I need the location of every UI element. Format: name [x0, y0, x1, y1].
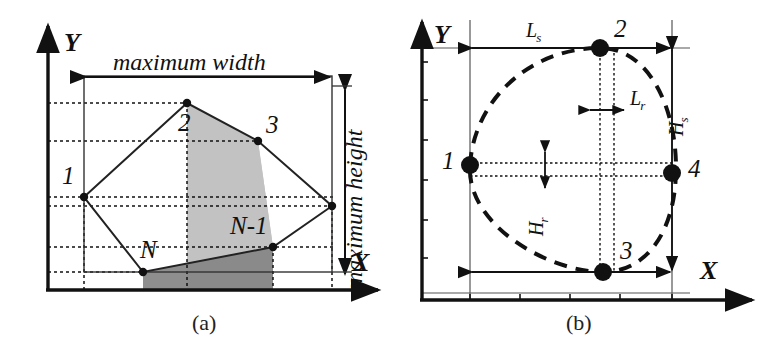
point-label-1: 1	[442, 148, 455, 173]
panel-b: Y X 1 2 3 4 Ls Lr Hs Hr (b)	[400, 0, 778, 356]
vertex-label-1: 1	[62, 163, 75, 188]
panel-b-graphic	[400, 0, 778, 356]
vertex-label-n-minus-1: N-1	[230, 213, 268, 238]
point-dot-4	[663, 164, 681, 182]
vertex-dot-n	[139, 268, 147, 276]
length-r-label: Lr	[630, 88, 645, 112]
figure-container: Y X maximum width maximum height 1 2 3 N…	[0, 0, 778, 356]
length-s-label: Ls	[526, 20, 541, 44]
vertex-dot-2	[183, 99, 191, 107]
vertex-label-2: 2	[178, 110, 191, 135]
vertex-label-3: 3	[266, 112, 279, 137]
panel-b-x-axis-label: X	[700, 258, 717, 284]
point-dot-1	[461, 156, 479, 174]
point-dot-2	[591, 39, 609, 57]
reference-frame-lines	[422, 20, 690, 300]
vertex-dot-1	[80, 193, 88, 201]
dashed-contour-curve	[470, 48, 676, 272]
panel-b-caption: (b)	[566, 312, 592, 334]
maximum-height-label: maximum height	[342, 130, 366, 289]
vertex-dot-right	[328, 202, 336, 210]
panel-a-caption: (a)	[192, 312, 216, 334]
height-s-label: Hs	[666, 117, 690, 136]
maximum-width-label: maximum width	[113, 50, 266, 74]
panel-a-y-axis-label: Y	[64, 30, 80, 56]
vertex-label-n: N	[140, 237, 157, 262]
point-label-4: 4	[688, 156, 701, 181]
point-label-3: 3	[620, 238, 633, 263]
vertex-dot-n-minus-1	[269, 243, 277, 251]
panel-a: Y X maximum width maximum height 1 2 3 N…	[0, 0, 400, 356]
point-dot-3	[594, 263, 612, 281]
vertex-dot-3	[254, 137, 262, 145]
point-label-2: 2	[614, 16, 627, 41]
point-guide-lines	[470, 48, 672, 272]
height-r-label: Hr	[526, 217, 550, 236]
panel-b-y-axis-label: Y	[434, 22, 450, 48]
